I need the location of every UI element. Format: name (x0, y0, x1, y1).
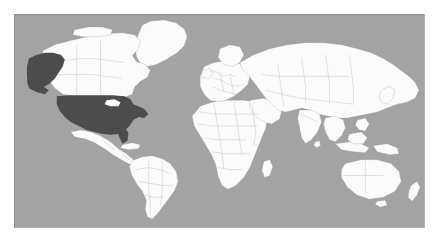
page-root (0, 0, 439, 242)
world-map-panel[interactable] (14, 14, 425, 228)
world-map-svg[interactable] (15, 15, 424, 227)
